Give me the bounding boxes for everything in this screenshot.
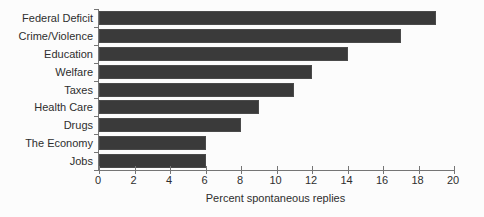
x-axis-tick-label: 8 — [225, 174, 255, 186]
bar-row — [99, 63, 454, 81]
x-axis-tick-label: 4 — [154, 174, 184, 186]
x-axis-tick — [383, 166, 384, 174]
x-axis-tick — [312, 166, 313, 174]
y-axis-tick — [94, 170, 98, 171]
bar-row — [99, 134, 454, 152]
x-axis-tick-label: 12 — [296, 174, 326, 186]
y-axis-tick — [94, 9, 98, 10]
category-label: Drugs — [0, 116, 93, 134]
category-label: Taxes — [0, 81, 93, 99]
y-axis-category-labels: Federal DeficitCrime/ViolenceEducationWe… — [0, 9, 93, 170]
category-label: Welfare — [0, 63, 93, 81]
category-label: Jobs — [0, 152, 93, 170]
bar — [99, 83, 294, 97]
bar-row — [99, 116, 454, 134]
bar-row — [99, 27, 454, 45]
x-axis-tick — [277, 166, 278, 174]
y-axis-tick — [94, 152, 98, 153]
bar-chart: Federal DeficitCrime/ViolenceEducationWe… — [0, 0, 484, 217]
bar — [99, 47, 348, 61]
x-axis-tick — [99, 166, 100, 174]
bar — [99, 154, 206, 168]
y-axis-tick — [94, 27, 98, 28]
bar — [99, 118, 241, 132]
x-axis-tick — [135, 166, 136, 174]
y-axis-tick — [94, 116, 98, 117]
x-axis-tick — [419, 166, 420, 174]
bar-row — [99, 81, 454, 99]
bar-row — [99, 9, 454, 27]
y-axis-tick — [94, 45, 98, 46]
bars-container — [99, 9, 454, 170]
x-axis-tick-label: 18 — [403, 174, 433, 186]
y-axis-tick — [94, 63, 98, 64]
category-label: Federal Deficit — [0, 9, 93, 27]
y-axis-tick — [94, 81, 98, 82]
category-label: Health Care — [0, 98, 93, 116]
x-axis-title: Percent spontaneous replies — [98, 192, 453, 204]
x-axis-tick — [454, 166, 455, 174]
bar — [99, 100, 259, 114]
x-axis-tick — [170, 166, 171, 174]
x-axis-tick-label: 0 — [83, 174, 113, 186]
x-axis-tick-label: 6 — [190, 174, 220, 186]
category-label: Education — [0, 45, 93, 63]
x-axis-tick-label: 20 — [438, 174, 468, 186]
x-axis-tick-label: 14 — [332, 174, 362, 186]
bar — [99, 136, 206, 150]
bar-row — [99, 98, 454, 116]
x-axis-tick-label: 2 — [119, 174, 149, 186]
category-label: Crime/Violence — [0, 27, 93, 45]
bar — [99, 29, 401, 43]
y-axis-tick — [94, 98, 98, 99]
x-axis-tick — [206, 166, 207, 174]
y-axis-tick — [94, 134, 98, 135]
bar — [99, 65, 312, 79]
x-axis-tick-label: 16 — [367, 174, 397, 186]
x-axis-tick — [241, 166, 242, 174]
x-axis-tick-label: 10 — [261, 174, 291, 186]
x-axis-tick — [348, 166, 349, 174]
bar-row — [99, 45, 454, 63]
bar — [99, 11, 436, 25]
plot-area — [98, 9, 454, 171]
category-label: The Economy — [0, 134, 93, 152]
